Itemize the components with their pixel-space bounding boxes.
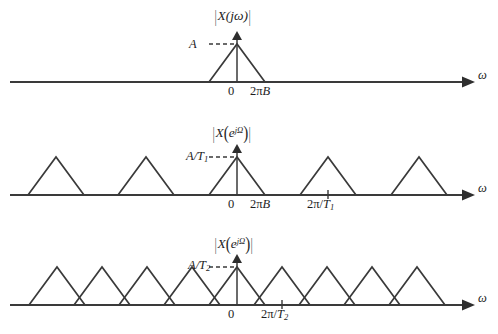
plot-canvas [0,0,498,334]
panel-2-vertical-arrowhead [232,144,242,153]
panel-1-bandedge-two-pi: 2π [250,84,263,98]
panel-3-x-symbol: X [217,236,225,251]
panel-2-paren-close: ) [243,124,248,143]
panel-1-origin-tick-label: 0 [228,85,234,98]
panel-1-paren-close: ) [243,8,248,23]
panel-2-amplitude-subscript: 1 [204,154,208,164]
panel-2-omega-axis-label: ω [478,182,487,195]
panel-2-bandedge-b: B [263,197,271,211]
panel-2-bandedge-tick-label: 2πB [250,198,270,211]
panel-2-amplitude-numerator: A/T [186,149,204,163]
panel-3-triangle-7 [344,267,400,305]
panel-3-triangle-2 [119,267,175,305]
panel-3-amplitude-label: A/T2 [188,259,210,273]
panel-2-magnitude-label: |X(ejΩ)| [212,125,252,142]
panel-2-origin-tick-label: 0 [228,198,234,211]
panel-1-vertical-arrowhead [232,31,242,40]
panel-2-bandedge-two-pi: 2π [250,197,263,211]
panel-3-sampling-rate-tick-label: 2π/T2 [261,308,288,322]
panel-2-paren-open: ( [224,124,229,143]
panel-3-rate-subscript: 2 [284,312,288,322]
panel-3-triangle-6 [299,267,355,305]
panel-3-triangle-5 [254,267,310,305]
panel-3-vertical-arrowhead [232,254,242,263]
panel-2 [10,144,475,201]
panel-3-triangle-1 [74,267,130,305]
panel-1-amplitude-label: A [189,38,197,51]
panel-3-triangle-0 [29,267,85,305]
panel-2-x-symbol: X [215,125,223,140]
panel-2-rate-subscript: 1 [330,202,334,212]
panel-1-magnitude-label: |X(jω)| [214,8,251,25]
panel-2-triangle-3 [300,157,356,195]
panel-2-triangle-1 [118,157,174,195]
abs-bar-left: | [213,125,215,142]
panel-2-triangle-0 [28,157,84,195]
panel-2-triangle-4 [391,157,447,195]
abs-bar-right: | [249,125,251,142]
panel-1-omega-axis-label: ω [478,69,487,82]
panel-1-x-symbol: X [217,8,225,23]
panel-3-omega-axis-label: ω [478,292,487,305]
panel-3-rate-t: T [277,307,284,321]
panel-3-omega-arrowhead [462,300,475,311]
panel-1-bandedge-b: B [263,84,271,98]
panel-3-rate-two-pi: 2π/ [261,307,277,321]
signal-spectrum-figure: |X(jω)| A 0 2πB ω |X(ejΩ)| A/T1 0 2πB 2π… [0,0,498,334]
panel-1 [10,31,475,88]
panel-2-sampling-rate-tick-label: 2π/T1 [307,198,334,212]
panel-2-rate-t: T [323,197,330,211]
abs-bar-right: | [249,8,251,25]
panel-3-magnitude-label: |X(ejΩ)| [214,236,254,253]
panel-3-origin-tick-label: 0 [228,308,234,321]
panel-2-exponent: jΩ [235,125,244,135]
panel-3-paren-close: ) [245,235,250,254]
abs-bar-left: | [215,8,217,25]
panel-3 [10,254,475,311]
panel-3-triangle-8 [389,267,445,305]
panel-2-amplitude-label: A/T1 [186,150,208,164]
panel-2-rate-two-pi: 2π/ [307,197,323,211]
panel-3-triangle-3 [164,267,220,305]
panel-2-omega-arrowhead [462,190,475,201]
panel-1-omega-arrowhead [462,77,475,88]
panel-3-paren-open: ( [226,235,231,254]
panel-3-exponent: jΩ [237,236,246,246]
panel-3-amplitude-numerator: A/T [188,258,206,272]
abs-bar-right: | [251,236,253,253]
panel-1-bandedge-tick-label: 2πB [250,85,270,98]
panel-3-amplitude-subscript: 2 [206,263,210,273]
abs-bar-left: | [215,236,217,253]
panel-1-argument: jω [230,8,243,23]
